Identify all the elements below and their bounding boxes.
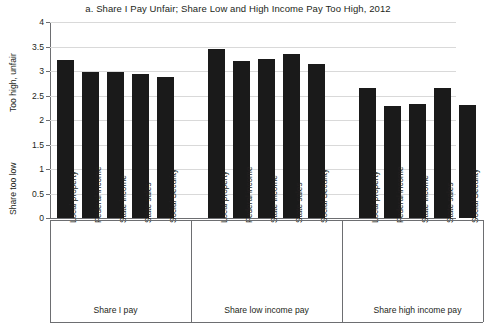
label-band-right <box>483 220 484 322</box>
x-axis-category-label: Federal income <box>94 167 103 223</box>
x-axis-category-label: Federal income <box>245 167 254 223</box>
x-axis-category-label: Social Security <box>169 169 178 223</box>
y-axis-tick-label: 4 <box>20 17 44 27</box>
x-axis-category-label: State income <box>119 175 128 223</box>
x-axis-category-label: State sales <box>144 182 153 223</box>
y-axis-tick-label: 3 <box>20 66 44 76</box>
y-axis-label-top: Too high, unfair <box>8 53 18 112</box>
x-axis-category-label: Federal income <box>396 167 405 223</box>
x-axis-category-label: Local property <box>69 171 78 223</box>
y-axis-tick-label: 1 <box>20 164 44 174</box>
chart-title: a. Share I Pay Unfair; Share Low and Hig… <box>0 3 476 14</box>
x-axis-category-label: Local property <box>371 171 380 223</box>
x-axis-category-label: Local property <box>220 171 229 223</box>
x-axis-category-label: State sales <box>295 182 304 223</box>
y-axis-tick-label: 0.5 <box>20 189 44 199</box>
label-band-top <box>50 220 483 221</box>
y-axis-label-bottom: Share too low <box>8 162 18 215</box>
group-label: Share high income pay <box>348 305 488 315</box>
x-axis-category-label: Social Security <box>320 169 329 223</box>
group-label: Share I pay <box>46 305 186 315</box>
label-band-bottom <box>50 322 483 323</box>
y-axis-tick-label: 2.5 <box>20 91 44 101</box>
y-axis-tick-label: 2 <box>20 115 44 125</box>
gridline <box>50 47 456 48</box>
x-axis-category-label: State income <box>270 175 279 223</box>
label-band-left <box>50 220 51 322</box>
x-axis-category-label: State sales <box>446 182 455 223</box>
group-separator <box>342 220 343 322</box>
group-separator <box>191 220 192 322</box>
y-axis-tick-label: 1.5 <box>20 140 44 150</box>
gridline <box>50 22 456 23</box>
x-axis-category-label: State income <box>421 175 430 223</box>
y-axis-tick-label: 3.5 <box>20 42 44 52</box>
y-axis-tick-label: 0 <box>20 213 44 223</box>
group-label: Share low income pay <box>197 305 337 315</box>
x-axis-category-label: Social Security <box>471 169 480 223</box>
